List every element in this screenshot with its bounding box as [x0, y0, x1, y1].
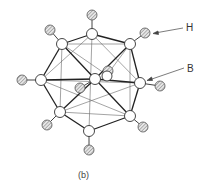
icosahedron-diagram [0, 0, 203, 184]
figure-caption: (b) [78, 170, 89, 180]
label-arrows [147, 28, 184, 81]
hydrogen-label: H [186, 22, 193, 33]
boron-label: B [187, 63, 194, 74]
